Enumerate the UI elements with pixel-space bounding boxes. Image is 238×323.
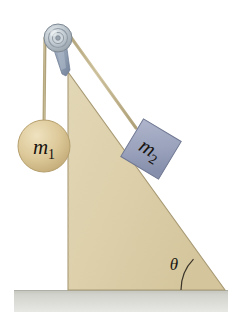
ground-surface <box>14 290 228 312</box>
mass-m1: m1 <box>18 120 70 172</box>
physics-diagram-figure: m1 m2 θ <box>0 0 238 323</box>
mass-m1-subscript: 1 <box>48 147 55 162</box>
rope-vertical-segment <box>44 38 45 124</box>
mass-m1-symbol: m <box>33 135 48 159</box>
inclined-plane <box>68 72 225 290</box>
pulley-wheel <box>44 24 72 52</box>
diagram-canvas: m1 m2 θ <box>0 0 238 323</box>
angle-theta-label: θ <box>170 255 178 274</box>
